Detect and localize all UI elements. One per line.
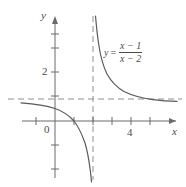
equation-annotation: y = x − 1 x − 2 [104, 41, 142, 64]
equation-equals-sign: = [110, 48, 116, 58]
equation-numerator: x − 1 [119, 41, 142, 51]
x-axis-label: x [172, 126, 177, 137]
equation-denominator: x − 2 [119, 54, 142, 64]
x-tick-label-4: 4 [127, 127, 133, 138]
y-axis-label: y [41, 10, 46, 21]
graph-canvas [0, 0, 186, 187]
y-tick-label-2: 2 [42, 66, 48, 77]
y-axis-arrow [52, 16, 58, 24]
equation-fraction: x − 1 x − 2 [119, 41, 142, 64]
x-axis-arrow [169, 118, 176, 124]
origin-label: 0 [44, 124, 50, 135]
rational-function-figure: y x 2 4 0 y = x − 1 x − 2 [0, 0, 186, 187]
equation-lhs: y [104, 48, 108, 58]
curve-left-branch [21, 103, 92, 182]
